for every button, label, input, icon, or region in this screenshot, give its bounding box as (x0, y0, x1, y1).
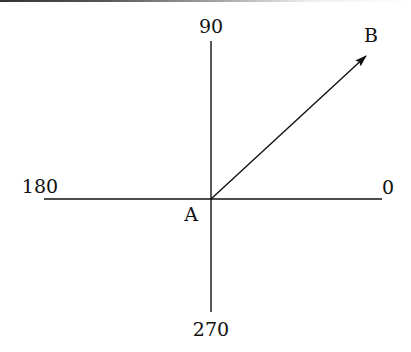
bearing-diagram: 90 270 180 0 A B (0, 0, 411, 352)
label-origin-a: A (183, 203, 198, 225)
label-270: 270 (193, 318, 229, 340)
vector-a-to-b (211, 56, 366, 199)
label-point-b: B (364, 24, 378, 46)
label-180: 180 (22, 175, 58, 197)
label-0: 0 (382, 176, 394, 198)
label-90: 90 (199, 15, 223, 37)
